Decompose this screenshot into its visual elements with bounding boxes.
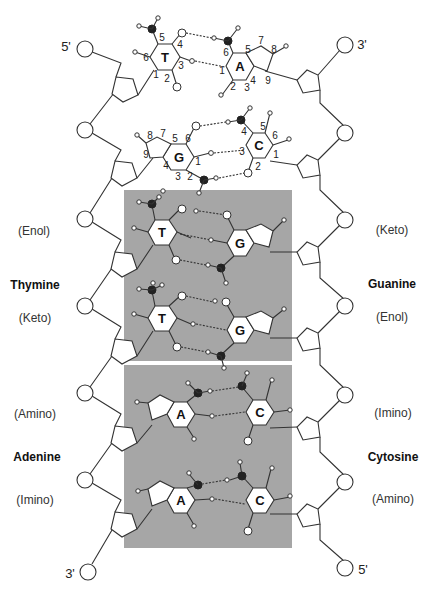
strand-end-bottom-left: 3' — [65, 566, 75, 581]
right-phosphates — [337, 37, 353, 576]
svg-text:3: 3 — [244, 82, 250, 93]
svg-text:C: C — [255, 405, 265, 420]
svg-text:5: 5 — [172, 133, 178, 144]
svg-text:T: T — [158, 225, 166, 240]
svg-text:8: 8 — [271, 44, 277, 55]
svg-text:C: C — [255, 493, 265, 508]
svg-text:2: 2 — [230, 81, 236, 92]
label-amino-left: (Amino) — [14, 407, 56, 421]
svg-text:4: 4 — [241, 126, 247, 137]
svg-text:7: 7 — [160, 128, 166, 139]
svg-text:2: 2 — [164, 73, 170, 84]
svg-text:T: T — [158, 311, 166, 326]
svg-text:2: 2 — [187, 171, 193, 182]
label-keto-left: (Keto) — [19, 311, 52, 325]
label-enol-right: (Enol) — [376, 310, 408, 324]
svg-text:1: 1 — [153, 69, 159, 80]
label-adenine: Adenine — [13, 450, 60, 464]
svg-text:7: 7 — [258, 35, 264, 46]
diagram-canvas: T 54 63 12 A 65 78 14 92 3 G — [0, 0, 430, 589]
left-phosphates — [77, 41, 96, 580]
right-backbone — [297, 37, 353, 576]
label-amino-right: (Amino) — [372, 492, 414, 506]
svg-text:6: 6 — [223, 47, 229, 58]
svg-text:9: 9 — [265, 75, 271, 86]
svg-text:G: G — [235, 323, 245, 338]
svg-text:4: 4 — [177, 39, 183, 50]
svg-text:A: A — [235, 59, 245, 74]
svg-text:C: C — [254, 138, 264, 153]
label-imino-left: (Imino) — [16, 493, 53, 507]
svg-text:G: G — [235, 236, 245, 251]
svg-text:1: 1 — [273, 149, 279, 160]
svg-text:1: 1 — [195, 156, 201, 167]
svg-text:3: 3 — [175, 171, 181, 182]
svg-text:4: 4 — [250, 75, 256, 86]
svg-text:T: T — [161, 50, 169, 65]
label-keto-right: (Keto) — [376, 223, 409, 237]
label-enol-left: (Enol) — [18, 224, 50, 238]
svg-text:5: 5 — [245, 44, 251, 55]
svg-text:6: 6 — [185, 133, 191, 144]
svg-text:8: 8 — [147, 130, 153, 141]
label-imino-right: (Imino) — [374, 406, 411, 420]
base-pair-guanine-cytosine: G 87 56 94 13 2 C 45 63 12 — [135, 106, 297, 195]
base-pair-thymine-adenine: T 54 63 12 A 65 78 14 92 3 — [133, 16, 297, 97]
label-thymine: Thymine — [10, 278, 59, 292]
svg-text:A: A — [176, 407, 186, 422]
right-sugar-rings — [297, 70, 320, 527]
strand-end-top-right: 3' — [357, 37, 367, 52]
label-cytosine: Cytosine — [368, 450, 419, 464]
strand-end-bottom-right: 5' — [358, 562, 368, 577]
svg-text:5: 5 — [260, 121, 266, 132]
shaded-box-thymine-guanine — [124, 190, 292, 361]
label-guanine: Guanine — [368, 277, 416, 291]
svg-text:1: 1 — [219, 65, 225, 76]
svg-text:3: 3 — [239, 146, 245, 157]
svg-text:9: 9 — [143, 149, 149, 160]
svg-text:6: 6 — [143, 52, 149, 63]
strand-end-top-left: 5' — [61, 39, 71, 54]
svg-text:4: 4 — [163, 160, 169, 171]
svg-text:G: G — [174, 150, 184, 165]
dna-tautomer-diagram: T 54 63 12 A 65 78 14 92 3 G — [0, 0, 430, 589]
svg-text:2: 2 — [255, 161, 261, 172]
svg-text:6: 6 — [272, 130, 278, 141]
svg-text:3: 3 — [178, 60, 184, 71]
svg-text:5: 5 — [159, 32, 165, 43]
svg-text:A: A — [176, 493, 186, 508]
